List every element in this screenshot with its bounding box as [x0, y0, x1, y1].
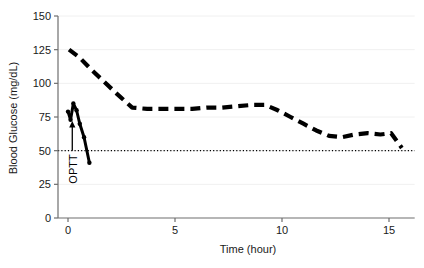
- series-1-marker-6: [87, 161, 91, 165]
- series-1-marker-1: [68, 117, 72, 121]
- x-axis-title: Time (hour): [220, 243, 276, 255]
- annotation-label-OPTT: OPTT: [67, 154, 79, 184]
- series-1-marker-3: [74, 108, 78, 112]
- y-tick-label-75: 75: [39, 111, 51, 123]
- series-1-marker-2: [71, 101, 75, 105]
- y-tick-label-125: 125: [33, 44, 51, 56]
- blood-glucose-line-chart: OPTT 0255075100125150051015 Blood Glucos…: [0, 0, 424, 268]
- y-tick-label-0: 0: [45, 212, 51, 224]
- chart-figure: OPTT 0255075100125150051015 Blood Glucos…: [0, 0, 424, 268]
- series-1-marker-4: [78, 122, 82, 126]
- x-tick-label-15: 15: [383, 224, 395, 236]
- y-tick-label-25: 25: [39, 178, 51, 190]
- series-1-marker-5: [82, 135, 86, 139]
- x-tick-label-5: 5: [172, 224, 178, 236]
- y-axis-title: Blood Glucose (mg/dL): [7, 62, 19, 175]
- series-1-marker-0: [66, 109, 70, 113]
- y-tick-label-50: 50: [39, 145, 51, 157]
- x-tick-label-0: 0: [65, 224, 71, 236]
- y-tick-label-100: 100: [33, 77, 51, 89]
- x-tick-label-10: 10: [276, 224, 288, 236]
- y-tick-label-150: 150: [33, 10, 51, 22]
